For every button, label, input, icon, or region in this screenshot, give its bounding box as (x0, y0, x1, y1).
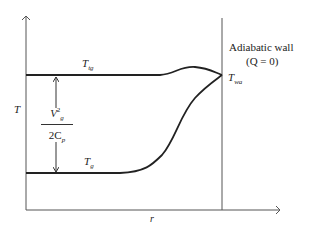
y-axis-label: T (14, 104, 20, 115)
curve-total-temperature (26, 67, 222, 75)
x-axis-label: r (150, 214, 154, 224)
wall-condition: (Q = 0) (246, 56, 278, 67)
wall-temperature-label: Twa (228, 72, 242, 86)
curve-label-total-temperature: Ttg (82, 58, 94, 72)
wall-label: Adiabatic wall (229, 42, 293, 53)
difference-fraction: V2g 2Cp (40, 106, 74, 144)
curve-label-static-temperature: Tg (84, 156, 94, 170)
